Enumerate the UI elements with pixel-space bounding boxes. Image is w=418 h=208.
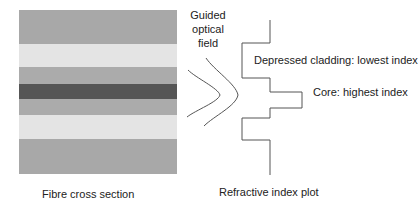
field-label-line1: Guided <box>178 8 238 22</box>
refractive-index-profile <box>242 20 302 175</box>
field-label: Guided optical field <box>178 8 238 50</box>
field-label-line2: optical <box>178 22 238 36</box>
field-label-line3: field <box>178 36 238 50</box>
optical-field-curve-outer <box>204 58 238 126</box>
optical-field-curve-inner <box>187 70 220 117</box>
core-label: Core: highest index <box>313 86 408 98</box>
index-plot-caption: Refractive index plot <box>219 186 319 198</box>
depressed-cladding-label: Depressed cladding: lowest index <box>254 54 418 66</box>
fibre-caption: Fibre cross section <box>42 188 134 200</box>
